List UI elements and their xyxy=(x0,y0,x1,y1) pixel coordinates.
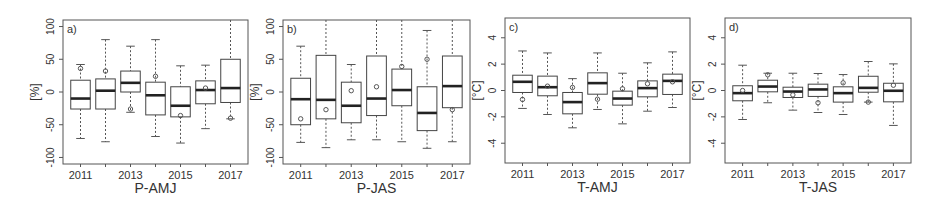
box-2015 xyxy=(613,73,633,124)
panel-label: d) xyxy=(729,21,739,33)
x-tick-label: 2011 xyxy=(731,168,755,180)
y-tick-label: 50 xyxy=(45,53,56,65)
iqr-box xyxy=(513,75,533,92)
box-2016 xyxy=(858,62,878,105)
y-tick-label: -2 xyxy=(707,112,718,121)
panel-a: a)100500-50-100[%]2011201320152017P-AMJ xyxy=(28,18,248,196)
box-2012 xyxy=(538,53,558,115)
box-2015 xyxy=(171,66,191,143)
y-tick-label: -100 xyxy=(45,147,56,167)
panel-b: b)100500-50-100[%]2011201320152017P-JAS xyxy=(248,18,470,196)
y-tick-label: 0 xyxy=(265,89,276,95)
box-2011 xyxy=(513,51,533,108)
iqr-box xyxy=(884,83,904,102)
iqr-box xyxy=(858,76,878,92)
box-2014 xyxy=(588,53,608,110)
iqr-box xyxy=(96,79,116,109)
panel-label: b) xyxy=(287,23,297,35)
iqr-box xyxy=(291,78,311,124)
box-2012 xyxy=(316,20,336,148)
iqr-box xyxy=(316,55,336,118)
y-tick-label: 2 xyxy=(487,61,498,67)
y-tick-label: -4 xyxy=(487,138,498,147)
iqr-box xyxy=(367,56,387,116)
y-tick-label: 0 xyxy=(45,89,56,95)
panel-c: c)420-2-4[°C]2011201320152017T-AMJ xyxy=(470,18,690,195)
box-2014 xyxy=(367,20,387,140)
box-2013 xyxy=(121,46,141,112)
iqr-box xyxy=(833,87,853,102)
iqr-box xyxy=(146,82,166,115)
box-2013 xyxy=(563,79,583,128)
box-2014 xyxy=(146,40,166,137)
box-2017 xyxy=(442,20,462,142)
box-2011 xyxy=(291,46,311,142)
box-2011 xyxy=(733,65,753,119)
y-tick-label: 2 xyxy=(707,61,718,67)
iqr-box xyxy=(417,87,437,131)
y-tick-label: 0 xyxy=(707,87,718,93)
box-2017 xyxy=(663,52,683,108)
box-2011 xyxy=(71,65,91,139)
x-tick-label: 2011 xyxy=(511,168,535,180)
y-axis-label: [%] xyxy=(248,83,262,100)
panel-label: a) xyxy=(67,23,77,35)
box-2015 xyxy=(392,20,412,142)
y-axis-label: [°C] xyxy=(470,80,484,100)
y-tick-label: -4 xyxy=(707,138,718,147)
box-2014 xyxy=(808,73,828,112)
iqr-box xyxy=(121,71,141,92)
y-tick-label: 100 xyxy=(45,18,56,35)
x-axis-title: P-JAS xyxy=(357,180,397,196)
iqr-box xyxy=(442,56,462,108)
x-axis-title: T-JAS xyxy=(799,179,837,195)
y-tick-label: 100 xyxy=(265,18,276,35)
y-tick-label: -2 xyxy=(487,112,498,121)
box-2016 xyxy=(417,30,437,148)
x-tick-label: 2011 xyxy=(289,169,313,181)
box-2012 xyxy=(758,73,778,103)
y-tick-label: 0 xyxy=(487,87,498,93)
box-2017 xyxy=(221,20,241,120)
y-tick-label: -50 xyxy=(45,117,56,132)
y-tick-label: 4 xyxy=(707,35,718,41)
box-2017 xyxy=(884,64,904,126)
boxplot-figure: a)100500-50-100[%]2011201320152017P-AMJb… xyxy=(0,0,943,199)
box-2016 xyxy=(196,65,216,128)
x-tick-label: 2017 xyxy=(218,169,242,181)
box-2015 xyxy=(833,75,853,115)
y-axis-label: [%] xyxy=(28,83,42,100)
x-tick-label: 2011 xyxy=(69,169,93,181)
y-axis-label: [°C] xyxy=(690,80,704,100)
box-2012 xyxy=(96,40,116,142)
y-tick-label: -50 xyxy=(265,117,276,132)
box-2016 xyxy=(638,63,658,111)
x-axis-title: T-AMJ xyxy=(577,179,617,195)
x-tick-label: 2017 xyxy=(440,169,464,181)
y-tick-label: -100 xyxy=(265,147,276,167)
x-tick-label: 2017 xyxy=(660,168,684,180)
x-axis-title: P-AMJ xyxy=(135,180,177,196)
y-tick-label: 50 xyxy=(265,53,276,65)
iqr-box xyxy=(196,81,216,104)
box-2013 xyxy=(341,65,361,140)
mean-marker xyxy=(228,116,232,120)
panel-label: c) xyxy=(509,21,518,33)
iqr-box xyxy=(71,80,91,109)
iqr-box xyxy=(221,59,241,102)
box-2013 xyxy=(783,73,803,110)
y-tick-label: 4 xyxy=(487,35,498,41)
panel-d: d)420-2-4[°C]2011201320152017T-JAS xyxy=(690,18,911,195)
iqr-box xyxy=(171,87,191,117)
x-tick-label: 2017 xyxy=(881,168,905,180)
iqr-box xyxy=(392,69,412,106)
